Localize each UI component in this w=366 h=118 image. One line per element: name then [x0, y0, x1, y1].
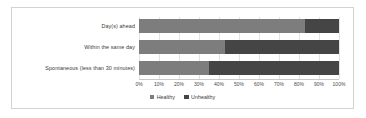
- gridline: [339, 17, 340, 79]
- chart-plot-wrapper: Day(s) ahead Within the same day Spontan…: [12, 8, 353, 108]
- x-axis-tick-labels: 0%10%20%30%40%50%60%70%80%90%100%: [139, 81, 339, 91]
- legend-item[interactable]: Unhealthy: [184, 94, 215, 100]
- chart-container: Day(s) ahead Within the same day Spontan…: [11, 7, 354, 109]
- bar-segment-unhealthy: [209, 61, 339, 75]
- category-label: Within the same day: [84, 38, 135, 56]
- bar-segment-healthy: [139, 61, 209, 75]
- x-axis-line: [139, 79, 339, 80]
- stacked-bar: [139, 61, 339, 75]
- legend-item[interactable]: Healthy: [150, 94, 175, 100]
- category-axis-labels: Day(s) ahead Within the same day Spontan…: [14, 17, 138, 79]
- legend-swatch-icon: [184, 95, 189, 100]
- x-axis-tick-label: 100%: [326, 81, 352, 87]
- bar-segment-unhealthy: [305, 19, 339, 33]
- bar-segment-healthy: [139, 19, 305, 33]
- legend-label: Healthy: [157, 94, 175, 100]
- category-label: Spontaneous (less than 30 minutes): [45, 59, 135, 77]
- stacked-bar: [139, 40, 339, 54]
- stacked-bar: [139, 19, 339, 33]
- plot-area: [139, 17, 339, 79]
- legend-swatch-icon: [150, 95, 155, 100]
- bar-segment-healthy: [139, 40, 225, 54]
- bar-segment-unhealthy: [225, 40, 339, 54]
- chart-legend: HealthyUnhealthy: [12, 94, 353, 100]
- category-label: Day(s) ahead: [101, 17, 135, 35]
- legend-label: Unhealthy: [191, 94, 215, 100]
